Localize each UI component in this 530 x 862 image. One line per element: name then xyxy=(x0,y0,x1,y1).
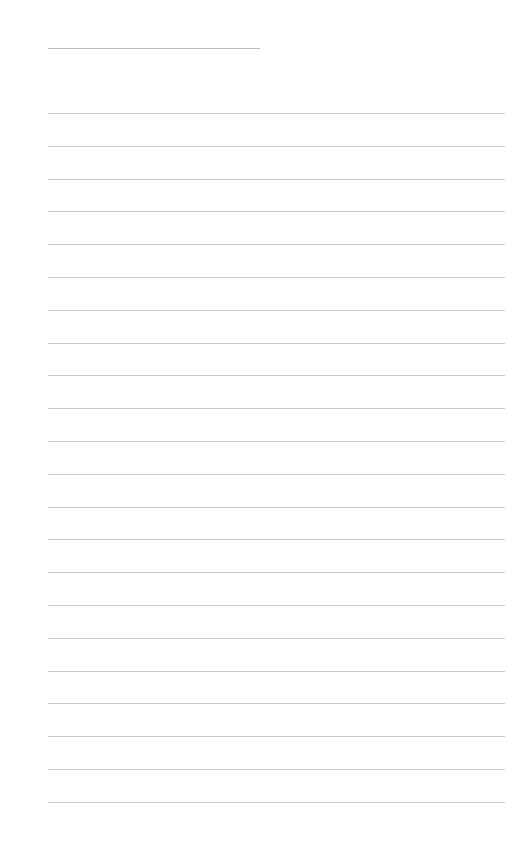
ruled-line xyxy=(48,605,505,606)
ruled-line xyxy=(48,375,505,376)
ruled-line xyxy=(48,507,505,508)
ruled-line xyxy=(48,244,505,245)
ruled-line xyxy=(48,277,505,278)
ruled-line xyxy=(48,474,505,475)
ruled-line xyxy=(48,703,505,704)
ruled-line xyxy=(48,572,505,573)
ruled-line xyxy=(48,179,505,180)
ruled-line xyxy=(48,539,505,540)
ruled-line xyxy=(48,310,505,311)
ruled-line xyxy=(48,408,505,409)
ruled-line xyxy=(48,113,505,114)
ruled-line xyxy=(48,769,505,770)
ruled-line xyxy=(48,671,505,672)
ruled-line xyxy=(48,343,505,344)
ruled-line xyxy=(48,802,505,803)
ruled-line xyxy=(48,146,505,147)
ruled-line xyxy=(48,736,505,737)
title-underline xyxy=(48,48,260,49)
ruled-line xyxy=(48,638,505,639)
ruled-line xyxy=(48,211,505,212)
ruled-line xyxy=(48,441,505,442)
